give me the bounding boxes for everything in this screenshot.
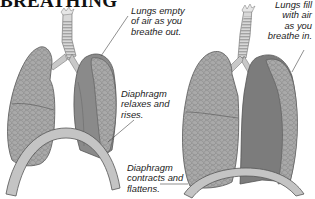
exhale-figure (6, 7, 120, 196)
label-lungs-fill: Lungs fill with air as you breathe in. (268, 0, 312, 42)
leader-lungs-empty (101, 16, 128, 56)
label-lungs-empty: Lungs empty of air as you breathe out. (131, 6, 185, 37)
label-diaphragm-contracts: Diaphragm contracts and flattens. (127, 163, 183, 194)
leader-lungs-fill (292, 50, 304, 72)
label-diaphragm-relaxes: Diaphragm relaxes and rises. (121, 89, 169, 120)
